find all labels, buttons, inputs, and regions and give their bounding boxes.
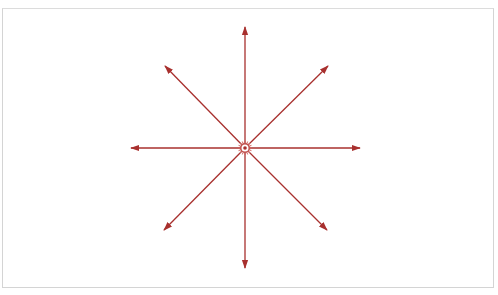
arrow-down-left: [164, 148, 245, 230]
arrow-up-left: [165, 66, 245, 148]
arrow-down-right: [245, 148, 327, 230]
center-burst-icon: [238, 141, 252, 155]
radial-arrow-diagram: [0, 0, 498, 295]
arrow-up-right: [245, 66, 328, 148]
